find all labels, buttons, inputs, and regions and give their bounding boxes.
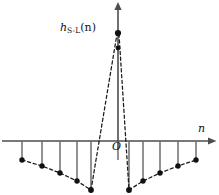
peak-marker (115, 30, 121, 36)
y-axis-label: hS-L(n) (60, 22, 96, 34)
sample-markers (19, 157, 198, 193)
x-axis-label: n (198, 123, 205, 134)
y-axis-label-subscript: S-L (67, 26, 80, 35)
stem-group-right (129, 141, 196, 190)
stem-group-left (22, 141, 91, 190)
y-axis-label-arg: (n) (80, 21, 96, 34)
envelope-right (129, 160, 196, 190)
envelope-right-fall (119, 34, 129, 190)
peak-shoulder-marker (116, 46, 121, 51)
y-axis (114, 2, 121, 150)
origin-label: O (112, 141, 121, 152)
x-axis (2, 137, 217, 144)
impulse-response-figure: hS-L(n) O n (0, 0, 219, 195)
envelope-left (22, 160, 91, 190)
envelope-left-rise (91, 34, 117, 190)
stem-plot-canvas (0, 0, 219, 195)
